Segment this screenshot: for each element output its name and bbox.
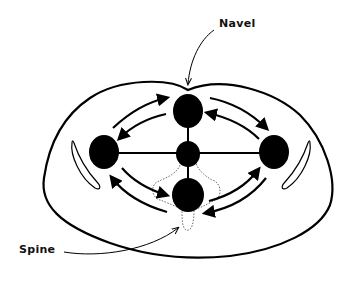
spine-label: Spine xyxy=(19,243,55,256)
node-top xyxy=(173,94,203,128)
arrow-right-to-bottom xyxy=(206,178,266,213)
navel-label: Navel xyxy=(219,17,256,30)
arrow-left-to-bottom xyxy=(122,168,166,195)
node-center xyxy=(176,141,200,167)
torso-cross-section-diagram xyxy=(0,0,352,282)
spine-leader-line xyxy=(64,228,178,254)
node-left xyxy=(89,135,119,169)
navel-leader-line xyxy=(188,30,214,84)
node-bottom xyxy=(172,178,204,212)
node-right xyxy=(259,135,289,169)
arrow-bottom-to-right xyxy=(209,170,258,201)
